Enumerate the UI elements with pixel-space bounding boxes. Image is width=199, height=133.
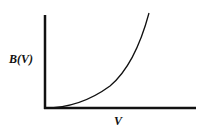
x-axis-label: V xyxy=(114,114,122,129)
curve-b-of-v xyxy=(45,13,149,108)
y-axis-label: B(V) xyxy=(9,52,33,67)
